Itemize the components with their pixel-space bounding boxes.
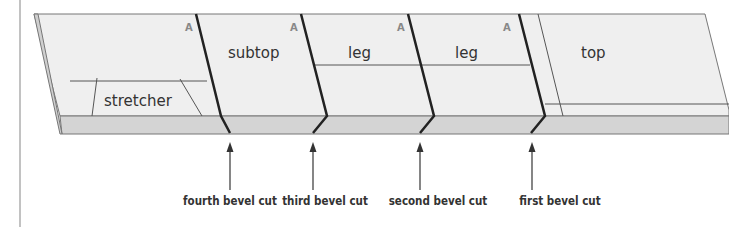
cut-caption-third: third bevel cut	[282, 194, 368, 208]
cut-caption-fourth: fourth bevel cut	[183, 194, 277, 208]
part-label-leg: leg	[455, 44, 478, 62]
arrow-icon	[417, 142, 424, 190]
face-mark: A	[397, 22, 405, 33]
arrow-icon	[529, 142, 536, 190]
bevel-cut-diagram: A A A A stretcher subtop leg leg top fou…	[0, 0, 729, 227]
face-mark: A	[290, 22, 298, 33]
part-label-stretcher: stretcher	[104, 92, 173, 110]
cut-caption-second: second bevel cut	[389, 194, 488, 208]
part-label-subtop: subtop	[228, 44, 279, 62]
cut-caption-first: first bevel cut	[519, 194, 600, 208]
face-mark: A	[503, 22, 511, 33]
arrow-icon	[227, 142, 234, 190]
arrow-icon	[310, 142, 317, 190]
board-front-edge	[60, 116, 729, 134]
part-label-leg: leg	[348, 44, 371, 62]
face-mark: A	[185, 22, 193, 33]
part-label-top: top	[581, 44, 606, 62]
